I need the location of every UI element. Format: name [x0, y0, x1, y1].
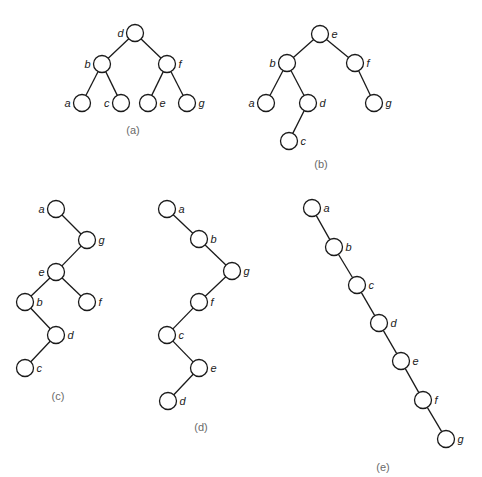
node-label: d: [391, 317, 398, 329]
node-label: d: [320, 97, 327, 109]
node-circle-icon: [258, 95, 275, 112]
node-label: a: [179, 203, 185, 215]
tree-node-g: g: [79, 232, 106, 249]
node-label: f: [99, 296, 103, 308]
tree-c-nodes: agebfdc: [17, 201, 106, 377]
edge-b-a: [270, 71, 283, 96]
tree-node-d: d: [117, 25, 143, 42]
edge-b-a: [86, 72, 98, 96]
node-label: d: [68, 329, 75, 341]
edge-d-b: [108, 39, 129, 58]
edge-b-g: [205, 245, 226, 265]
node-label: e: [160, 97, 166, 109]
tree-node-c: c: [17, 360, 43, 377]
tree-node-f: f: [191, 294, 215, 311]
tree-node-d: d: [300, 95, 327, 112]
caption-d: (d): [194, 421, 207, 433]
tree-node-d: d: [160, 393, 187, 410]
node-circle-icon: [48, 327, 65, 344]
tree-node-g: g: [438, 431, 465, 448]
edge-c-d: [361, 292, 374, 315]
edge-e-f: [405, 368, 419, 392]
node-circle-icon: [191, 231, 208, 248]
tree-node-g: g: [224, 263, 251, 280]
node-circle-icon: [179, 95, 196, 112]
node-circle-icon: [17, 360, 34, 377]
node-label: c: [179, 329, 185, 341]
node-circle-icon: [191, 360, 208, 377]
node-circle-icon: [326, 239, 343, 256]
node-label: f: [179, 58, 183, 70]
edge-a-g: [62, 215, 81, 234]
tree-node-c: c: [349, 277, 375, 294]
edge-d-c: [293, 111, 304, 134]
node-label: e: [38, 266, 44, 278]
edge-e-f: [62, 278, 81, 296]
tree-node-f: f: [415, 392, 439, 409]
tree-node-f: f: [347, 55, 371, 72]
node-circle-icon: [159, 201, 176, 218]
node-circle-icon: [304, 200, 321, 217]
edge-f-g: [359, 71, 371, 96]
edge-e-d: [174, 374, 193, 395]
edge-a-b: [173, 215, 193, 233]
node-label: g: [199, 97, 206, 109]
tree-node-c: c: [281, 133, 307, 150]
edge-e-f: [327, 39, 349, 57]
node-circle-icon: [366, 95, 383, 112]
node-circle-icon: [94, 56, 111, 73]
edge-a-b: [316, 215, 330, 239]
node-label: b: [84, 58, 90, 70]
node-circle-icon: [438, 431, 455, 448]
node-label: f: [211, 296, 215, 308]
node-label: f: [367, 57, 371, 69]
tree-node-e: e: [38, 264, 64, 281]
node-label: d: [180, 395, 187, 407]
edge-b-c: [338, 254, 352, 277]
tree-node-b: b: [191, 231, 217, 248]
tree-node-e: e: [312, 26, 338, 43]
node-circle-icon: [312, 26, 329, 43]
tree-node-f: f: [79, 294, 103, 311]
tree-node-a: a: [304, 200, 330, 217]
tree-node-c: c: [159, 327, 185, 344]
node-circle-icon: [79, 294, 96, 311]
node-circle-icon: [79, 232, 96, 249]
node-circle-icon: [393, 353, 410, 370]
edge-b-d: [291, 71, 304, 96]
tree-node-a: a: [64, 95, 90, 112]
tree-node-b: b: [17, 294, 43, 311]
tree-node-b: b: [84, 56, 110, 73]
edge-c-e: [173, 341, 193, 362]
tree-node-a: a: [159, 201, 185, 218]
edge-f-g: [171, 72, 183, 96]
node-circle-icon: [17, 294, 34, 311]
caption-e: (e): [376, 461, 389, 473]
tree-node-b: b: [326, 239, 352, 256]
node-label: a: [64, 97, 70, 109]
tree-node-e: e: [140, 95, 166, 112]
node-label: b: [37, 296, 43, 308]
node-label: d: [117, 27, 124, 39]
node-label: b: [346, 241, 352, 253]
tree-node-b: b: [269, 55, 295, 72]
node-circle-icon: [371, 315, 388, 332]
node-circle-icon: [159, 327, 176, 344]
node-circle-icon: [191, 294, 208, 311]
edge-f-c: [173, 308, 193, 329]
node-label: g: [386, 97, 393, 109]
node-label: c: [37, 362, 43, 374]
edge-g-f: [205, 277, 226, 296]
tree-node-d: d: [371, 315, 398, 332]
node-circle-icon: [349, 277, 366, 294]
node-label: a: [324, 202, 330, 214]
node-label: b: [211, 233, 217, 245]
node-label: e: [413, 355, 419, 367]
node-circle-icon: [48, 264, 65, 281]
tree-node-f: f: [159, 56, 183, 73]
tree-d-nodes: abgfced: [159, 201, 251, 410]
tree-node-e: e: [191, 360, 217, 377]
captions-layer: (a)(b)(c)(d)(e): [52, 124, 390, 473]
node-label: c: [369, 279, 375, 291]
tree-node-a: a: [248, 95, 274, 112]
